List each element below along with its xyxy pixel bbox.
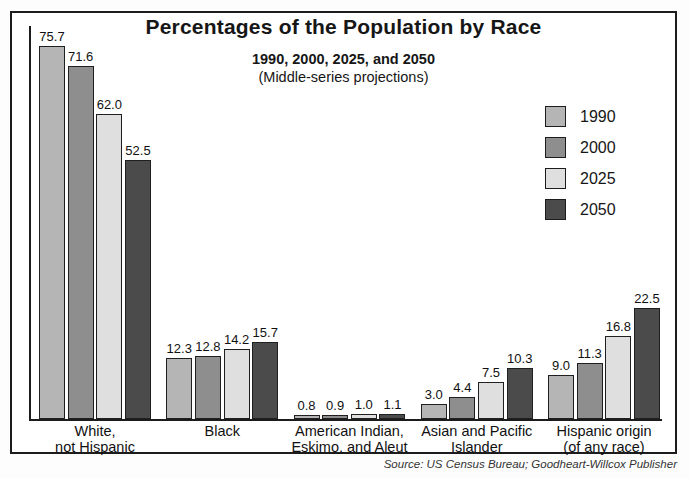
value-label: 1.0 xyxy=(355,397,373,412)
legend-swatch-2025 xyxy=(545,168,566,189)
bar-2025: 14.2 xyxy=(224,349,250,419)
bar-1990: 0.8 xyxy=(294,415,320,419)
source-credit: Source: US Census Bureau; Goodheart-Will… xyxy=(384,458,677,470)
bar-group: 0.80.91.01.1American Indian, Eskimo, and… xyxy=(294,25,406,419)
bar-rect-2025 xyxy=(605,336,631,419)
x-axis-line xyxy=(29,419,662,421)
bar-2025: 1.0 xyxy=(351,414,377,419)
bar-rect-2000 xyxy=(68,66,94,419)
legend-item-2050: 2050 xyxy=(545,199,616,220)
value-label: 12.8 xyxy=(195,339,220,354)
bar-2025: 7.5 xyxy=(478,382,504,419)
bar-rect-2050 xyxy=(634,308,660,419)
bar-1990: 75.7 xyxy=(39,46,65,419)
value-label: 0.8 xyxy=(297,398,315,413)
legend-item-2000: 2000 xyxy=(545,137,616,158)
bar-rect-1990 xyxy=(166,358,192,419)
bar-2000: 71.6 xyxy=(68,66,94,419)
legend-swatch-2000 xyxy=(545,137,566,158)
legend-label-2000: 2000 xyxy=(580,139,616,157)
bar-rect-2050 xyxy=(379,414,405,419)
bar-rect-2000 xyxy=(195,356,221,419)
bar-2050: 52.5 xyxy=(125,160,151,419)
value-label: 71.6 xyxy=(68,49,93,64)
value-label: 3.0 xyxy=(425,387,443,402)
bar-2000: 12.8 xyxy=(195,356,221,419)
bar-2050: 22.5 xyxy=(634,308,660,419)
value-label: 14.2 xyxy=(224,332,249,347)
bar-1990: 12.3 xyxy=(166,358,192,419)
legend-item-2025: 2025 xyxy=(545,168,616,189)
value-label: 12.3 xyxy=(167,341,192,356)
value-label: 7.5 xyxy=(482,365,500,380)
value-label: 62.0 xyxy=(97,97,122,112)
bar-1990: 3.0 xyxy=(421,404,447,419)
legend-swatch-2050 xyxy=(545,199,566,220)
bar-rect-2025 xyxy=(224,349,250,419)
value-label: 1.1 xyxy=(383,397,401,412)
bar-rect-1990 xyxy=(548,375,574,419)
value-label: 9.0 xyxy=(552,358,570,373)
bar-1990: 9.0 xyxy=(548,375,574,419)
bar-rect-1990 xyxy=(294,415,320,419)
bar-2050: 15.7 xyxy=(252,342,278,419)
value-label: 10.3 xyxy=(507,351,532,366)
bar-rect-2050 xyxy=(125,160,151,419)
bar-rect-2025 xyxy=(96,114,122,419)
bar-2050: 10.3 xyxy=(507,368,533,419)
value-label: 0.9 xyxy=(326,398,344,413)
bar-2050: 1.1 xyxy=(379,414,405,419)
legend-label-1990: 1990 xyxy=(580,108,616,126)
bar-group: 3.04.47.510.3Asian and Pacific Islander xyxy=(421,25,533,419)
legend-label-2025: 2025 xyxy=(580,170,616,188)
bar-rect-2000 xyxy=(449,397,475,419)
bar-2025: 16.8 xyxy=(605,336,631,419)
bar-rect-1990 xyxy=(421,404,447,419)
legend-swatch-1990 xyxy=(545,106,566,127)
legend-label-2050: 2050 xyxy=(580,201,616,219)
value-label: 52.5 xyxy=(125,143,150,158)
value-label: 16.8 xyxy=(606,319,631,334)
value-label: 75.7 xyxy=(39,29,64,44)
value-label: 11.3 xyxy=(577,346,601,361)
value-label: 15.7 xyxy=(253,325,278,340)
bar-rect-2025 xyxy=(478,382,504,419)
bar-group: 12.312.814.215.7Black xyxy=(166,25,278,419)
bar-rect-2050 xyxy=(252,342,278,419)
legend-item-1990: 1990 xyxy=(545,106,616,127)
bar-rect-2025 xyxy=(351,414,377,419)
bar-2000: 4.4 xyxy=(449,397,475,419)
value-label: 22.5 xyxy=(634,291,659,306)
value-label: 4.4 xyxy=(453,380,471,395)
bar-rect-1990 xyxy=(39,46,65,419)
bar-rect-2000 xyxy=(577,363,603,419)
category-label: Hispanic origin (of any race) xyxy=(494,424,690,455)
bar-rect-2000 xyxy=(322,415,348,419)
legend: 1990 2000 2025 2050 xyxy=(545,106,616,230)
bar-2000: 0.9 xyxy=(322,415,348,419)
bar-group: 75.771.662.052.5White, not Hispanic xyxy=(39,25,151,419)
bar-rect-2050 xyxy=(507,368,533,419)
bar-2000: 11.3 xyxy=(577,363,603,419)
bar-2025: 62.0 xyxy=(96,114,122,419)
